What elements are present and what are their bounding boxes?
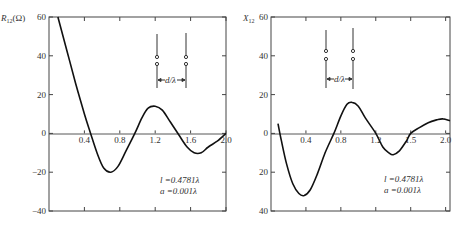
- right-y-axis-title: X12: [242, 13, 255, 24]
- charts-canvas: 6040200−20−40 0.40.81.21.62.0 R12(Ω) d/λ…: [0, 0, 460, 231]
- y-tick-label: 40: [259, 51, 269, 61]
- x-tick-label: 0.4: [300, 135, 312, 145]
- y-tick-label: −40: [32, 206, 47, 216]
- left-param-a: a =0.001λ: [160, 186, 197, 196]
- x-tick-label: 0.8: [335, 135, 347, 145]
- y-tick-label: −20: [32, 167, 47, 177]
- x-tick-label: 0.8: [114, 135, 126, 145]
- y-tick-label: 40: [37, 51, 47, 61]
- left-chart-r12: 6040200−20−40 0.40.81.21.62.0 R12(Ω) d/λ…: [0, 12, 232, 216]
- left-y-axis-title: R12(Ω): [0, 13, 25, 24]
- right-param-l: l =0.4781λ: [384, 174, 424, 184]
- y-tick-label: 20: [37, 90, 47, 100]
- right-param-a: a =0.001λ: [384, 185, 421, 195]
- left-spacing-label: d/λ: [165, 75, 176, 85]
- x-tick-label: 1.6: [185, 135, 197, 145]
- y-tick-label: 40: [259, 206, 269, 216]
- left-x-ticks: 0.40.81.21.62.0: [79, 17, 232, 211]
- x-tick-label: 0.4: [79, 135, 91, 145]
- y-tick-label: 60: [259, 12, 269, 22]
- x-tick-label: 2.0: [440, 135, 452, 145]
- right-y-ticks: 60402002040: [259, 12, 450, 216]
- y-tick-label: 0: [42, 128, 47, 138]
- y-tick-label: 20: [259, 167, 269, 177]
- right-chart-x12: 60402002040 0.40.81.21.52.0 X12 d/λ l =0…: [242, 12, 452, 216]
- y-tick-label: 20: [259, 90, 269, 100]
- y-tick-label: 0: [264, 128, 269, 138]
- right-spacing-label: d/λ: [334, 74, 345, 84]
- x-tick-label: 1.2: [150, 135, 161, 145]
- x12-curve: [278, 102, 450, 196]
- right-x-ticks: 0.40.81.21.52.0: [300, 17, 451, 211]
- r12-curve: [58, 17, 226, 172]
- y-tick-label: 60: [37, 12, 47, 22]
- left-param-l: l =0.4781λ: [160, 175, 200, 185]
